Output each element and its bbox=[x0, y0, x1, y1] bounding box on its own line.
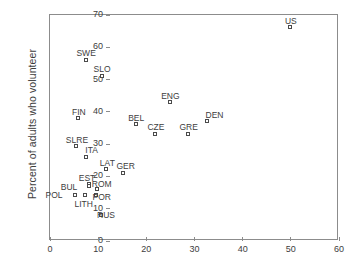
y-tick-mark bbox=[106, 111, 110, 112]
x-tick-mark bbox=[50, 237, 51, 241]
data-point-label: CZE bbox=[147, 123, 164, 132]
data-point-label: LAT bbox=[100, 159, 115, 168]
x-tick-label: 50 bbox=[271, 244, 311, 254]
data-point-marker bbox=[84, 155, 88, 159]
data-point-marker bbox=[153, 132, 157, 136]
y-tick-mark bbox=[106, 144, 110, 145]
data-point-label: SLO bbox=[94, 65, 111, 74]
data-point-label: FIN bbox=[72, 108, 86, 117]
y-axis-label: Percent of adults who volunteer bbox=[26, 14, 38, 234]
y-tick-mark bbox=[106, 241, 110, 242]
data-point-label: DEN bbox=[206, 111, 224, 120]
data-point-marker bbox=[104, 167, 108, 171]
x-tick-mark bbox=[242, 237, 243, 241]
data-point-label: RUS bbox=[97, 211, 115, 220]
x-tick-mark bbox=[194, 237, 195, 241]
y-tick-mark bbox=[106, 208, 110, 209]
data-point-label: SLRE bbox=[66, 136, 88, 145]
x-tick-mark bbox=[98, 237, 99, 241]
scatter-chart-figure: Percent of adults who volunteer 01020304… bbox=[0, 0, 348, 266]
y-tick-mark bbox=[106, 47, 110, 48]
data-point-label: POR bbox=[93, 193, 111, 202]
x-tick-mark bbox=[146, 237, 147, 241]
y-tick-mark bbox=[106, 79, 110, 80]
x-tick-label: 40 bbox=[223, 244, 263, 254]
x-tick-label: 20 bbox=[126, 244, 166, 254]
data-point-marker bbox=[83, 193, 87, 197]
data-point-label: GRE bbox=[180, 123, 198, 132]
y-tick-label: 70 bbox=[63, 9, 103, 20]
data-point-label: SWE bbox=[76, 49, 95, 58]
y-tick-label: 50 bbox=[63, 74, 103, 85]
data-point-label: GER bbox=[116, 162, 134, 171]
data-point-marker bbox=[84, 58, 88, 62]
data-point-marker bbox=[76, 116, 80, 120]
y-tick-mark bbox=[106, 15, 110, 16]
data-point-label: BEL bbox=[128, 114, 144, 123]
x-tick-mark bbox=[290, 237, 291, 241]
data-point-marker bbox=[186, 132, 190, 136]
data-point-label: BUL bbox=[61, 183, 78, 192]
x-tick-label: 60 bbox=[319, 244, 348, 254]
data-point-label: ENG bbox=[161, 92, 179, 101]
data-point-marker bbox=[168, 100, 172, 104]
x-tick-label: 10 bbox=[78, 244, 118, 254]
data-point-marker bbox=[74, 144, 78, 148]
data-point-marker bbox=[288, 25, 292, 29]
data-point-label: LITH bbox=[74, 200, 92, 209]
data-point-label: POL bbox=[46, 191, 63, 200]
data-point-marker bbox=[205, 119, 209, 123]
y-tick-mark bbox=[106, 176, 110, 177]
data-point-label: ROM bbox=[92, 180, 112, 189]
data-point-label: US bbox=[285, 17, 297, 26]
data-point-label: ITA bbox=[85, 146, 98, 155]
data-point-marker bbox=[87, 184, 91, 188]
x-tick-mark bbox=[339, 237, 340, 241]
x-tick-label: 30 bbox=[175, 244, 215, 254]
x-tick-label: 0 bbox=[30, 244, 70, 254]
data-point-marker bbox=[73, 193, 77, 197]
data-point-marker bbox=[100, 74, 104, 78]
plot-area: 010203040506070 0102030405060 USSWESLOEN… bbox=[49, 14, 338, 240]
data-point-marker bbox=[134, 122, 138, 126]
data-point-marker bbox=[121, 171, 125, 175]
